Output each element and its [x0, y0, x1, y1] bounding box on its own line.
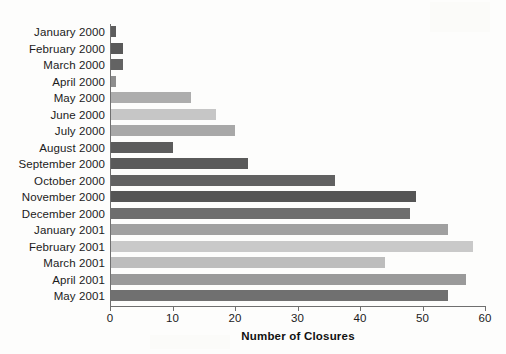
x-axis-tick-label: 50 — [416, 312, 429, 324]
y-axis-tick-label: March 2001 — [43, 255, 105, 272]
x-axis-tick — [173, 306, 174, 311]
bar-row — [110, 222, 485, 239]
bar — [110, 274, 466, 285]
y-axis-tick-label: December 2000 — [22, 206, 105, 223]
y-axis-tick-label: February 2001 — [29, 239, 105, 256]
bar-row — [110, 173, 485, 190]
bar — [110, 208, 410, 219]
x-axis-tick-label: 30 — [291, 312, 304, 324]
bar — [110, 59, 123, 70]
x-axis-tick — [235, 306, 236, 311]
chart-page: January 2000February 2000March 2000April… — [0, 0, 506, 354]
y-axis-labels: January 2000February 2000March 2000April… — [0, 24, 105, 305]
x-axis-tick — [360, 306, 361, 311]
x-axis-tick-label: 20 — [229, 312, 242, 324]
y-axis-tick-label: May 2000 — [54, 90, 105, 107]
bar — [110, 92, 191, 103]
bar-row — [110, 206, 485, 223]
x-axis-tick — [485, 306, 486, 311]
x-axis-tick — [423, 306, 424, 311]
bar — [110, 142, 173, 153]
bar-row — [110, 57, 485, 74]
bar-row — [110, 189, 485, 206]
bar-row — [110, 156, 485, 173]
y-axis-tick-label: August 2000 — [39, 140, 105, 157]
bar — [110, 224, 448, 235]
y-axis-tick-label: February 2000 — [29, 41, 105, 58]
x-axis-tick-label: 40 — [354, 312, 367, 324]
bar-row — [110, 90, 485, 107]
y-axis-tick-label: July 2000 — [55, 123, 105, 140]
x-axis-tick-label: 0 — [107, 312, 113, 324]
bar — [110, 191, 416, 202]
x-axis-tick-label: 10 — [166, 312, 179, 324]
y-axis-tick-label: October 2000 — [34, 173, 105, 190]
bar-row — [110, 140, 485, 157]
y-axis-tick-label: April 2001 — [52, 272, 105, 289]
bar-row — [110, 24, 485, 41]
bar-row — [110, 239, 485, 256]
y-axis-tick-label: January 2001 — [34, 222, 105, 239]
x-axis-tick-label: 60 — [479, 312, 492, 324]
bar-row — [110, 272, 485, 289]
bar-row — [110, 74, 485, 91]
bar — [110, 241, 473, 252]
bar — [110, 257, 385, 268]
x-axis-tick — [298, 306, 299, 311]
bar — [110, 158, 248, 169]
x-axis-tick — [110, 306, 111, 311]
y-axis-tick-label: November 2000 — [22, 189, 105, 206]
y-axis-tick-label: June 2000 — [50, 107, 105, 124]
y-axis-tick-label: April 2000 — [52, 74, 105, 91]
plot-area — [110, 24, 485, 305]
bar — [110, 125, 235, 136]
bar-row — [110, 41, 485, 58]
y-axis-tick-label: January 2000 — [34, 24, 105, 41]
bar — [110, 175, 335, 186]
y-axis-line — [110, 24, 111, 306]
bar — [110, 43, 123, 54]
bar-row — [110, 123, 485, 140]
x-axis-title: Number of Closures — [110, 330, 486, 342]
bar-row — [110, 288, 485, 305]
y-axis-tick-label: March 2000 — [43, 57, 105, 74]
y-axis-tick-label: September 2000 — [19, 156, 105, 173]
bar — [110, 290, 448, 301]
bar-row — [110, 107, 485, 124]
bar — [110, 109, 216, 120]
y-axis-tick-label: May 2001 — [54, 288, 105, 305]
bar-row — [110, 255, 485, 272]
